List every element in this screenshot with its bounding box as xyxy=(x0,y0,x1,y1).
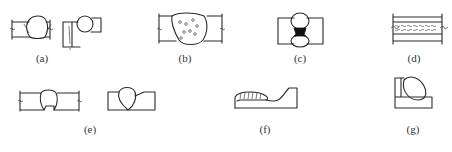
panel-e-drawing xyxy=(18,88,155,112)
panel-f-label: (f) xyxy=(260,123,271,135)
panel-e-label: (e) xyxy=(84,123,96,135)
panel-g-label: (g) xyxy=(407,123,420,135)
panel-g-drawing xyxy=(395,77,432,108)
panel-d-drawing xyxy=(391,14,448,44)
panel-c-label: (c) xyxy=(294,52,306,64)
panel-d-label: (d) xyxy=(408,52,421,64)
panel-b-drawing xyxy=(157,13,225,45)
panel-c-drawing xyxy=(278,13,323,47)
weld-defects-diagram xyxy=(0,0,452,152)
panel-a-drawing xyxy=(10,16,101,50)
panel-f-drawing xyxy=(235,88,297,108)
panel-a-label: (a) xyxy=(36,52,48,64)
panel-b-label: (b) xyxy=(179,52,192,64)
